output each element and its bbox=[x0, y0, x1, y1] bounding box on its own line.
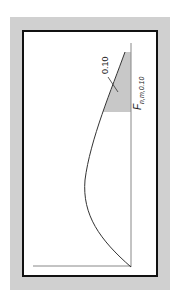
svg-text:Fn,m,0.10: Fn,m,0.10 bbox=[132, 77, 145, 110]
f-distribution-diagram: 0.10 Fn,m,0.10 bbox=[0, 0, 175, 300]
tail-area-label: 0.10 bbox=[100, 56, 110, 74]
critical-value-label: Fn,m,0.10 bbox=[132, 77, 145, 110]
critical-value-subscript: n,m,0.10 bbox=[138, 77, 145, 104]
